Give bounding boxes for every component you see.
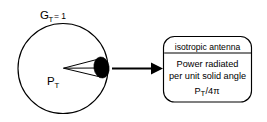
source-power-label: P T bbox=[47, 75, 60, 90]
arrow-head bbox=[151, 63, 163, 75]
formula-rest: /4π bbox=[206, 86, 220, 96]
gain-label-subscript: T bbox=[49, 15, 54, 24]
diagram-canvas: G T = 1 P T isotropic antenna Power radi… bbox=[0, 0, 267, 122]
antenna-box-line-1: Power radiated bbox=[177, 59, 239, 69]
gain-label: G T = 1 bbox=[40, 9, 66, 24]
antenna-box-line-2: per unit solid angle bbox=[169, 71, 246, 81]
source-power-subscript: T bbox=[55, 81, 60, 90]
antenna-box-formula: P T /4π bbox=[195, 86, 220, 99]
antenna-box-header: isotropic antenna bbox=[175, 42, 241, 52]
isotropic-antenna-diagram: G T = 1 P T isotropic antenna Power radi… bbox=[0, 0, 267, 122]
arrow-right-icon bbox=[112, 63, 163, 75]
gain-label-equals: = 1 bbox=[54, 11, 66, 21]
